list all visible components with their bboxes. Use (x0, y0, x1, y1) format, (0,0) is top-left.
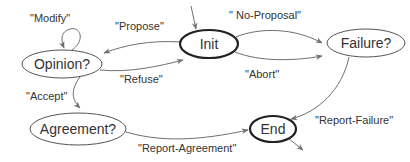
node-init-label: Init (200, 36, 219, 52)
edge-opinion-self-loop (62, 29, 80, 50)
edge-init-no-proposal (236, 30, 322, 43)
edge-opinion-to-init (100, 60, 183, 71)
edge-init-to-opinion (104, 42, 181, 53)
node-agreement-label: Agreement? (40, 121, 116, 137)
node-failure: Failure? (327, 29, 405, 57)
node-opinion: Opinion? (22, 50, 102, 78)
label-no-proposal: " No-Proposal" (229, 9, 301, 21)
edge-agreement-to-end (126, 130, 248, 139)
edge-opinion-to-agreement (73, 77, 80, 108)
edge-end-exit (288, 138, 303, 150)
node-agreement: Agreement? (30, 113, 126, 145)
label-abort: "Abort" (245, 68, 279, 80)
state-diagram: "Modify" "Propose" "Refuse" "Accept" " N… (0, 0, 410, 162)
label-refuse: "Refuse" (120, 73, 163, 85)
node-opinion-label: Opinion? (34, 56, 90, 72)
edge-start-to-init (191, 6, 196, 29)
node-failure-label: Failure? (341, 35, 392, 51)
node-end-label: End (261, 121, 286, 137)
label-modify: "Modify" (30, 12, 70, 24)
edge-init-abort (235, 52, 322, 60)
label-report-failure: "Report-Failure" (315, 114, 393, 126)
node-end: End (250, 116, 296, 142)
label-accept: "Accept" (26, 90, 68, 102)
label-propose: "Propose" (115, 20, 164, 32)
node-init: Init (180, 30, 238, 58)
label-report-agreement: "Report-Agreement" (138, 142, 236, 154)
edge-failure-to-end (291, 57, 349, 119)
